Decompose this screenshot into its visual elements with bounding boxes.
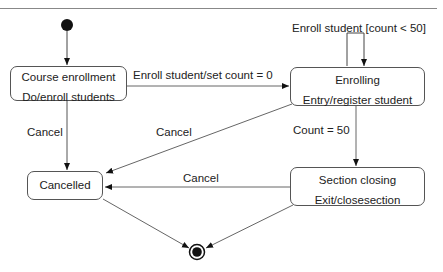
final-state-icon	[190, 245, 205, 260]
arrow-section-closing-to-final	[206, 205, 293, 248]
arrow-self-loop	[347, 33, 364, 66]
state-diagram: Course enrollment Do/enroll students Enr…	[0, 0, 443, 272]
state-action: Do/enroll students	[11, 88, 126, 104]
state-name: Cancelled	[39, 180, 90, 192]
arrow-cancel-from-enrolling	[106, 104, 292, 173]
label-cancel-section-closing: Cancel	[183, 173, 219, 185]
state-section-closing: Section closing Exit/closesection	[290, 167, 425, 206]
state-action: Exit/closesection	[291, 191, 424, 207]
transition-arrows	[0, 0, 443, 272]
state-enrolling: Enrolling Entry/register student	[290, 67, 425, 106]
arrow-cancelled-to-final	[103, 199, 189, 248]
state-course-enrollment: Course enrollment Do/enroll students	[10, 66, 127, 101]
state-cancelled: Cancelled	[27, 171, 103, 200]
label-enroll-set-count: Enroll student/set count = 0	[133, 70, 273, 82]
label-self-loop: Enroll student [count < 50]	[292, 23, 426, 35]
label-count-50: Count = 50	[293, 125, 350, 137]
initial-state-icon	[61, 19, 73, 31]
state-name: Section closing	[291, 168, 424, 191]
state-name: Course enrollment	[11, 67, 126, 88]
label-cancel-course-enrollment: Cancel	[27, 127, 63, 139]
state-name: Enrolling	[291, 68, 424, 91]
state-action: Entry/register student	[291, 91, 424, 107]
label-cancel-enrolling: Cancel	[156, 127, 192, 139]
